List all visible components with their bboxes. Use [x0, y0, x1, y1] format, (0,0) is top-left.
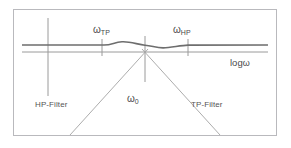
omega-tp-label: ωTP — [93, 20, 110, 36]
omega-0-label: ω0 — [127, 89, 139, 105]
tp-filter-slope — [142, 49, 220, 135]
plot-canvas — [0, 0, 291, 148]
omega-hp-symbol: ω — [173, 24, 181, 35]
omega-hp-subscript: HP — [181, 29, 191, 36]
filter-bode-figure: ωTP ωHP ω0 logω HP-Filter TP-Filter — [0, 0, 291, 148]
log-omega-axis-label: logω — [230, 53, 250, 69]
omega-tp-symbol: ω — [93, 24, 101, 35]
tp-filter-label: TP-Filter — [191, 101, 223, 109]
omega-hp-label: ωHP — [173, 20, 191, 36]
omega-symbol: ω — [243, 58, 250, 68]
omega-tp-subscript: TP — [101, 29, 110, 36]
omega-0-symbol: ω — [127, 93, 135, 104]
log-text: log — [230, 57, 243, 68]
hp-filter-label: HP-Filter — [35, 101, 67, 109]
omega-0-subscript: 0 — [135, 98, 139, 105]
